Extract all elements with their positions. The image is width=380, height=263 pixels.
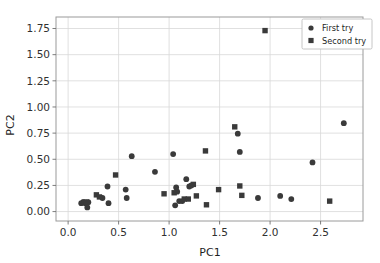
data-point-square [171,190,176,195]
data-point-square [194,193,199,198]
legend-marker-square [308,38,313,43]
data-point-circle [341,120,347,126]
x-tick-label: 1.5 [211,226,228,238]
scatter-plot-figure: 0.00.51.01.52.02.5 0.000.250.500.751.001… [0,0,380,263]
data-point-circle [123,187,129,193]
legend: First trySecond try [302,19,372,49]
data-point-circle [235,131,241,137]
data-point-square [203,148,208,153]
data-point-square [113,172,118,177]
data-point-circle [129,153,135,159]
x-tick-label: 2.5 [312,226,329,238]
x-tick-label: 0.0 [60,226,77,238]
data-point-circle [152,169,158,175]
y-tick-label: 1.50 [27,48,50,60]
x-tick-label: 1.0 [161,226,178,238]
data-point-circle [124,195,130,201]
y-tick-label: 1.00 [27,101,50,113]
data-point-square [97,194,102,199]
y-tick-label: 0.00 [27,205,50,217]
y-tick-label: 0.75 [27,127,50,139]
legend-marker-circle [308,25,313,30]
data-point-square [84,199,89,204]
y-tick-label: 0.50 [27,153,50,165]
data-point-circle [106,200,112,206]
data-point-square [161,191,166,196]
x-axis-title: PC1 [199,246,220,259]
data-point-circle [84,205,90,211]
data-point-circle [310,160,316,166]
data-point-square [232,124,237,129]
y-axis-tick-labels: 0.000.250.500.751.001.251.501.75 [27,22,50,217]
data-point-circle [183,176,189,182]
data-point-square [186,196,191,201]
data-point-square [216,187,221,192]
data-point-circle [170,151,176,157]
data-point-circle [237,149,243,155]
legend-entry-label: Second try [322,36,366,46]
y-tick-label: 1.75 [27,22,50,34]
data-point-square [237,183,242,188]
y-axis-title: PC2 [4,114,17,135]
data-point-square [191,182,196,187]
data-point-circle [288,196,294,202]
y-tick-label: 1.25 [27,75,50,87]
data-point-square [262,28,267,33]
x-axis-tick-labels: 0.00.51.01.52.02.5 [60,226,329,238]
legend-entry-label: First try [322,23,353,33]
data-point-square [239,193,244,198]
data-point-circle [277,193,283,199]
data-point-circle [255,195,261,201]
data-point-circle [105,184,111,190]
data-point-circle [172,202,178,208]
x-tick-label: 0.5 [110,226,127,238]
y-tick-label: 0.25 [27,179,50,191]
x-tick-label: 2.0 [262,226,279,238]
data-point-square [204,202,209,207]
plot-canvas: 0.00.51.01.52.02.5 0.000.250.500.751.001… [0,0,380,263]
data-point-square [327,198,332,203]
